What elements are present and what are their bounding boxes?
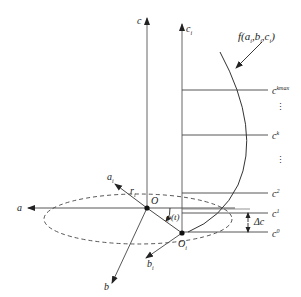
bi-axis — [146, 233, 182, 258]
angle-label: φ(t) — [166, 213, 179, 222]
origin-label: O — [151, 196, 158, 206]
level-0-label: c0 — [272, 228, 279, 239]
f-pointer-arrow — [236, 42, 262, 68]
f-curve — [188, 52, 247, 232]
origin-i-label: Oi — [178, 239, 187, 251]
b-axis-label: b — [104, 282, 109, 292]
ai-axis-label: ai — [107, 172, 114, 184]
level-k-label: ck — [272, 130, 279, 141]
ci-axis-label: ci — [186, 24, 192, 36]
a-axis-label: a — [17, 203, 22, 213]
c-axis-label: c — [137, 16, 141, 26]
level-kmax-label: ckmax — [272, 85, 289, 96]
radius-label: ri — [130, 186, 136, 198]
b-axis — [112, 208, 147, 283]
level-2-label: c2 — [272, 188, 279, 199]
bi-axis-label: bi — [147, 259, 154, 271]
level-1-label: c1 — [272, 208, 279, 219]
function-label: f(ai,bi,ci) — [238, 31, 275, 44]
ellipsis-upper: ⋮ — [276, 103, 285, 112]
ellipsis-lower: ⋮ — [276, 156, 285, 165]
origin-i-point — [179, 230, 184, 235]
origin-point — [144, 205, 149, 210]
delta-c-label: Δc — [254, 217, 264, 227]
diagram-canvas — [0, 0, 301, 297]
